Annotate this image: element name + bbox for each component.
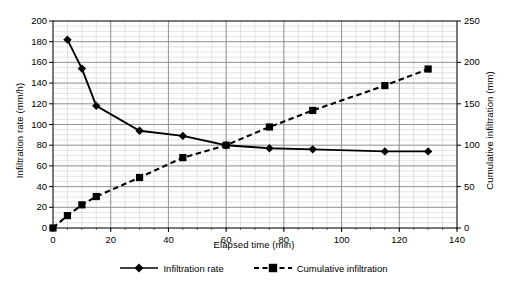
x-axis-tick-label: 20: [94, 234, 128, 245]
y-axis-right-title: Cumulative infiltration (mm): [484, 61, 495, 201]
legend-label-cumulative-infiltration: Cumulative infiltration: [297, 263, 388, 274]
legend-label-infiltration-rate: Infiltration rate: [163, 263, 223, 274]
chart-legend: Infiltration rate Cumulative infiltratio…: [0, 262, 508, 274]
x-axis-tick-label: 140: [440, 234, 474, 245]
data-point-marker: [424, 147, 432, 155]
y-axis-left-tick-label: 40: [13, 181, 47, 192]
y-axis-left-tick-label: 60: [13, 160, 47, 171]
data-point-marker: [135, 127, 143, 135]
y-axis-right-tick-label: 200: [464, 56, 498, 67]
data-point-marker: [93, 193, 100, 200]
data-point-marker: [266, 123, 273, 130]
data-point-marker: [381, 82, 388, 89]
y-axis-left-tick-label: 80: [13, 139, 47, 150]
legend-swatch-solid-diamond-icon: [120, 262, 158, 274]
data-point-marker: [49, 224, 56, 231]
y-axis-left-tick-label: 100: [13, 119, 47, 130]
y-axis-right-tick-label: 0: [464, 222, 498, 233]
y-axis-right-tick-label: 150: [464, 98, 498, 109]
y-axis-left-tick-label: 160: [13, 56, 47, 67]
legend-item-infiltration-rate: Infiltration rate: [120, 262, 223, 274]
data-point-marker: [78, 201, 85, 208]
x-axis-tick-label: 100: [325, 234, 359, 245]
data-point-marker: [309, 107, 316, 114]
data-point-marker: [179, 132, 187, 140]
x-axis-title: Elapsed time (min): [0, 239, 508, 250]
data-point-marker: [179, 154, 186, 161]
x-axis-tick-label: 40: [151, 234, 185, 245]
x-axis-tick-label: 80: [267, 234, 301, 245]
data-point-marker: [381, 147, 389, 155]
y-axis-right-tick-label: 50: [464, 181, 498, 192]
data-point-marker: [223, 142, 230, 149]
legend-swatch-dashed-square-icon: [254, 262, 292, 274]
data-point-marker: [309, 145, 317, 153]
y-axis-left-tick-label: 140: [13, 77, 47, 88]
y-axis-left-tick-label: 0: [13, 222, 47, 233]
legend-item-cumulative-infiltration: Cumulative infiltration: [254, 262, 388, 274]
x-axis-tick-label: 60: [209, 234, 243, 245]
y-axis-left-tick-label: 120: [13, 98, 47, 109]
y-axis-left-tick-label: 20: [13, 201, 47, 212]
y-axis-right-tick-label: 100: [464, 139, 498, 150]
y-axis-left-tick-label: 180: [13, 36, 47, 47]
data-point-marker: [136, 174, 143, 181]
x-axis-tick-label: 120: [382, 234, 416, 245]
data-point-marker: [425, 65, 432, 72]
chart-figure: Infiltration rate (mm/h) Cumulative infi…: [0, 0, 508, 290]
y-axis-left-tick-label: 200: [13, 15, 47, 26]
x-axis-tick-label: 0: [36, 234, 70, 245]
data-point-marker: [64, 212, 71, 219]
data-point-marker: [78, 64, 86, 72]
y-axis-right-tick-label: 250: [464, 15, 498, 26]
